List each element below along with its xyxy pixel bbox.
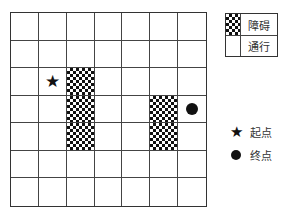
grid-cell [67, 151, 95, 179]
grid-cell [11, 13, 39, 41]
grid-cell [122, 123, 150, 151]
grid-cell [150, 178, 178, 206]
grid-cell [39, 13, 67, 41]
grid-cell [39, 178, 67, 206]
grid-cell [150, 68, 178, 96]
grid-cell [122, 68, 150, 96]
grid-cell [95, 13, 123, 41]
legend-end: 终点 [229, 147, 272, 163]
grid-cell [39, 96, 67, 124]
filled-circle-icon [229, 150, 243, 160]
grid-cell [11, 178, 39, 206]
grid-cell [178, 68, 206, 96]
grid-cell [11, 96, 39, 124]
obstacle-cell [67, 123, 95, 151]
grid-cell [122, 178, 150, 206]
start-label: 起点 [250, 124, 272, 140]
legend-start: ★ 起点 [229, 124, 272, 140]
grid-cell [95, 68, 123, 96]
end-cell [178, 96, 206, 124]
legend-row-passable: 通行 [226, 35, 277, 56]
star-icon: ★ [45, 73, 60, 90]
grid-cell [39, 123, 67, 151]
grid-cell [11, 41, 39, 69]
grid-cell [122, 151, 150, 179]
obstacle-cell [67, 96, 95, 124]
grid-cell [95, 41, 123, 69]
grid-cell [95, 96, 123, 124]
grid-cell [11, 123, 39, 151]
grid-cell [122, 96, 150, 124]
obstacle-cell [150, 123, 178, 151]
grid-cell [122, 13, 150, 41]
filled-circle-icon [186, 103, 198, 115]
grid-cell [67, 41, 95, 69]
grid-cell [178, 151, 206, 179]
grid-cell [11, 151, 39, 179]
passable-label: 通行 [241, 36, 277, 56]
obstacle-cell [67, 68, 95, 96]
grid-cell [178, 13, 206, 41]
passable-swatch [226, 36, 241, 56]
legend-table: 障碍 通行 [225, 13, 278, 57]
grid-cell [95, 178, 123, 206]
obstacle-cell [150, 96, 178, 124]
obstacle-label: 障碍 [241, 14, 277, 35]
star-icon: ★ [229, 125, 243, 140]
grid-cell [178, 178, 206, 206]
grid-cell [67, 13, 95, 41]
grid-cell [67, 178, 95, 206]
grid-cell [178, 41, 206, 69]
obstacle-swatch [226, 14, 241, 35]
grid-cell [39, 151, 67, 179]
grid-cell [150, 151, 178, 179]
grid-cell [11, 68, 39, 96]
grid-cell [95, 151, 123, 179]
end-label: 终点 [250, 147, 272, 163]
legend-row-obstacle: 障碍 [226, 14, 277, 35]
grid-cell [95, 123, 123, 151]
grid-cell [178, 123, 206, 151]
grid-cell [150, 13, 178, 41]
grid-cell [39, 41, 67, 69]
grid-map: ★ [10, 12, 207, 207]
grid-cell [122, 41, 150, 69]
grid-cell [150, 41, 178, 69]
start-cell: ★ [39, 68, 67, 96]
